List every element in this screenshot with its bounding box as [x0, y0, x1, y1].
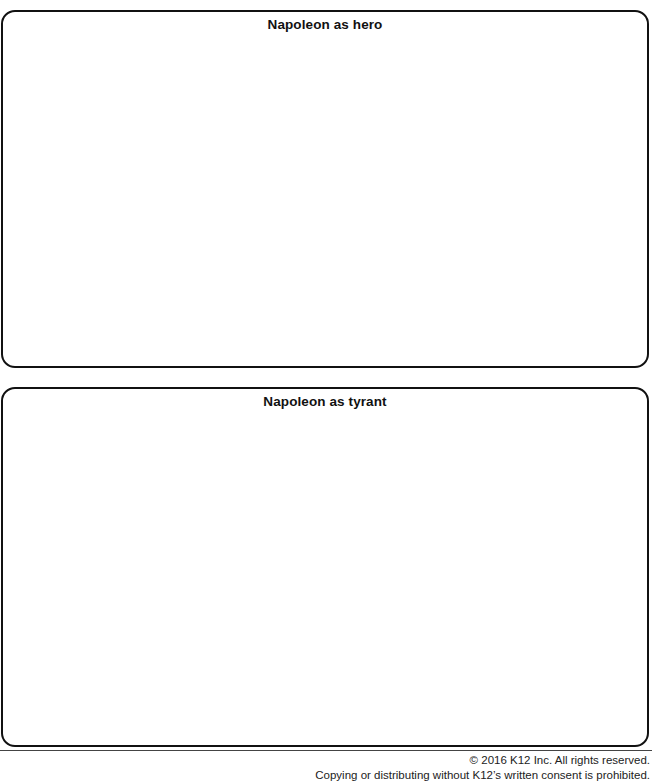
napoleon-as-hero-box: Napoleon as hero: [1, 10, 649, 368]
copyright-text: © 2016 K12 Inc. All rights reserved.: [315, 753, 650, 768]
napoleon-as-tyrant-writing-area[interactable]: [9, 415, 641, 739]
napoleon-as-tyrant-title: Napoleon as tyrant: [3, 394, 647, 409]
napoleon-as-hero-writing-area[interactable]: [9, 38, 641, 360]
napoleon-as-hero-title: Napoleon as hero: [3, 17, 647, 32]
napoleon-as-tyrant-box: Napoleon as tyrant: [1, 387, 649, 747]
footer: © 2016 K12 Inc. All rights reserved. Cop…: [315, 753, 650, 783]
footer-divider: [0, 750, 652, 751]
distribution-notice: Copying or distributing without K12’s wr…: [315, 768, 650, 783]
